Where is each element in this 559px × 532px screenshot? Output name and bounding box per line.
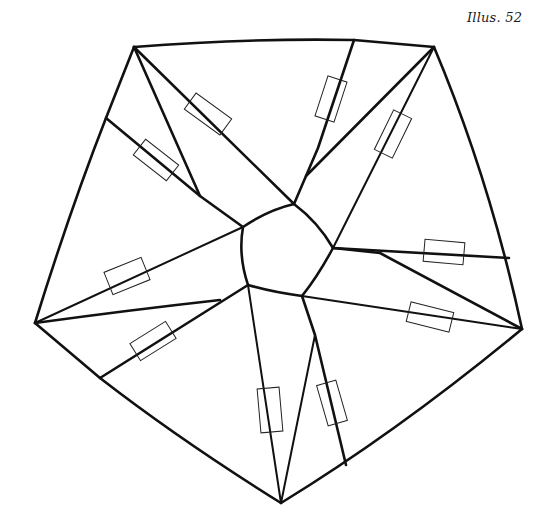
tab-rect (130, 321, 176, 360)
pentagon-fold-diagram (0, 0, 559, 532)
center-pentagon (241, 204, 333, 296)
tab-rect (315, 76, 347, 122)
outer-boundary (35, 40, 522, 503)
tab-rect (423, 239, 465, 264)
tab-rect (184, 93, 231, 135)
tab-rect (374, 110, 411, 158)
tab-markers (104, 76, 465, 433)
tab-rect (104, 257, 150, 294)
